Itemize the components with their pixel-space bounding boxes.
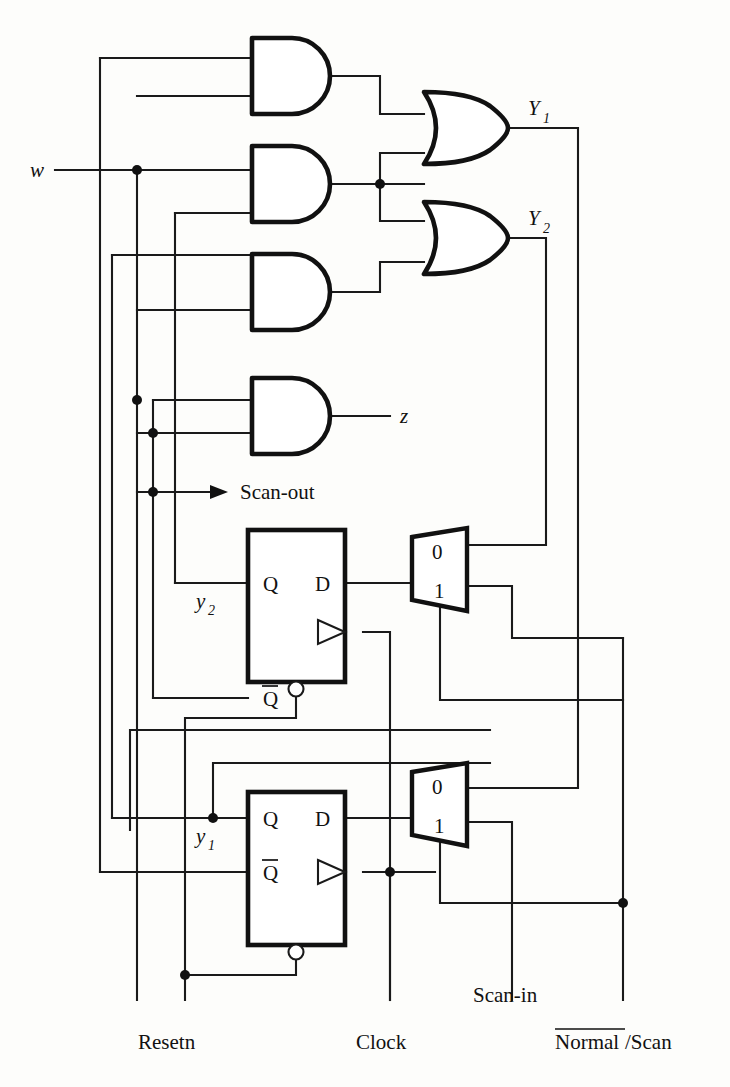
label-z: z: [399, 404, 408, 428]
and-gate-2[interactable]: [252, 146, 330, 222]
junction-dot-and2-out: [375, 179, 385, 189]
multiplexer-y2-input-0-label: 0: [432, 540, 443, 564]
label-Y2: Y: [528, 206, 542, 230]
label-normal-scan-overlined: Normal: [555, 1030, 619, 1054]
junction-dot-w-and4: [132, 395, 142, 405]
label-Y1: Y: [528, 96, 542, 120]
multiplexer-y1-input-0-label: 0: [432, 775, 443, 799]
wire-and1-out-to-or1: [320, 76, 424, 114]
label-w: w: [30, 158, 44, 182]
or-gate-1[interactable]: [424, 92, 508, 164]
flipflop-y1-pin-q-label: Q: [263, 807, 278, 831]
label-Y1-subscript: 1: [543, 111, 550, 126]
or-gate-2[interactable]: [424, 202, 508, 274]
junction-dot-resetn: [180, 970, 190, 980]
and-gate-1[interactable]: [252, 38, 330, 114]
label-y2-subscript: 2: [208, 603, 215, 618]
wire-Y2-out: [470, 238, 546, 545]
junction-dot-w-and4b: [148, 428, 158, 438]
label-scan-out: Scan-out: [240, 480, 315, 504]
wire-resetn-to-ff1: [185, 960, 296, 975]
junction-dot-w: [132, 165, 142, 175]
flipflop-y2-reset-bubble-icon: [289, 682, 304, 697]
label-group: w Y 1 Y 2 z Scan-out Q D Q y 2 Q D Q: [30, 96, 672, 1054]
label-y2: y: [194, 589, 206, 613]
and-gate-4-z[interactable]: [252, 378, 330, 454]
label-normal-scan-rest: /Scan: [625, 1030, 672, 1054]
junction-dot-scanout: [148, 487, 158, 497]
label-resetn: Resetn: [138, 1030, 196, 1054]
label-clock: Clock: [356, 1030, 407, 1054]
wire-mux1-in1-from-scanin: [470, 822, 512, 1000]
flipflop-y1-pin-d-label: D: [315, 807, 330, 831]
flipflop-y2-pin-q-label: Q: [263, 572, 278, 596]
multiplexer-y2-input-1-label: 1: [434, 579, 445, 603]
scan-out-arrow-icon: [210, 485, 228, 499]
flipflop-y2-body[interactable]: [248, 530, 345, 682]
flipflop-y2-pin-d-label: D: [315, 572, 330, 596]
or-gate-group: [424, 92, 508, 274]
circuit-diagram-page: w Y 1 Y 2 z Scan-out Q D Q y 2 Q D Q: [0, 0, 730, 1087]
wire-clock-to-ff2: [363, 632, 390, 1000]
label-y1: y: [194, 824, 206, 848]
junction-dot-clock-ff1: [385, 867, 395, 877]
wire-mux1-select: [440, 843, 623, 903]
wire-mux2-in1-from-y1: [470, 586, 623, 638]
multiplexer-y1-input-1-label: 1: [434, 814, 445, 838]
and-gate-group: [252, 38, 330, 454]
wire-and2-out-up-to-or1: [380, 153, 424, 184]
label-Y2-subscript: 2: [543, 221, 550, 236]
and-gate-3[interactable]: [252, 254, 330, 330]
wire-and3-out-to-or2: [320, 262, 424, 292]
flipflop-y1-reset-bubble-icon: [289, 945, 304, 960]
circuit-schematic-svg: w Y 1 Y 2 z Scan-out Q D Q y 2 Q D Q: [0, 0, 730, 1087]
flipflop-y2[interactable]: [248, 530, 345, 697]
flipflop-y2-pin-qbar-label: Q: [263, 687, 278, 711]
label-y1-subscript: 1: [208, 838, 215, 853]
label-scan-in: Scan-in: [473, 983, 538, 1007]
flipflop-y1-pin-qbar-label: Q: [263, 861, 278, 885]
wire-and2-out-down-to-or2: [380, 184, 424, 221]
junction-dot-y1-tap: [208, 813, 218, 823]
junction-dot-normalscan: [618, 898, 628, 908]
wire-mux2-select: [440, 608, 623, 700]
